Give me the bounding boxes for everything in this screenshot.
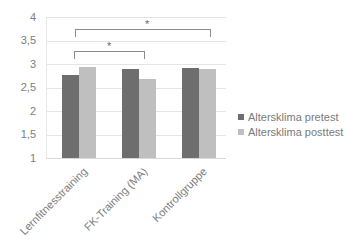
x-label-fk-training: FK-Training (MA) [82,165,150,233]
bar-kontrollgruppe-pretest [182,68,199,158]
y-tick-1-5: 1,5 [21,129,36,140]
y-tick-4: 4 [30,12,36,23]
legend-item-pretest: Altersklima pretest [238,109,343,124]
y-tick-2: 2 [30,106,36,117]
significance-star: * [107,40,111,52]
bar-fk-training-pretest [122,69,139,158]
significance-star: * [145,18,149,30]
x-axis-line [46,158,226,159]
y-tick-3: 3 [30,59,36,70]
gridline [46,41,226,42]
significance-bracket-lernfitness-fk-training [74,51,145,59]
legend-swatch-pretest [238,114,244,120]
bar-chart: 4 3,5 3 2,5 2 1,5 1 * * Lernfitnesstrain… [0,0,349,246]
legend: Altersklima pretest Altersklima posttest [238,109,343,139]
y-tick-2-5: 2,5 [21,82,36,93]
bar-lernfitness-posttest [79,67,96,158]
legend-label-posttest: Altersklima posttest [248,126,343,138]
bar-fk-training-posttest [139,79,156,158]
legend-swatch-posttest [238,129,244,135]
x-label-kontrollgruppe: Kontrollgruppe [150,165,209,224]
y-axis-line [46,17,47,159]
legend-label-pretest: Altersklima pretest [248,111,338,123]
legend-item-posttest: Altersklima posttest [238,124,343,139]
y-tick-1: 1 [30,153,36,164]
bar-kontrollgruppe-posttest [199,69,216,158]
x-label-lernfitnesstraining: Lernfitnesstraining [17,165,89,237]
significance-bracket-lernfitness-kontrollgruppe [75,29,211,37]
y-tick-3-5: 3,5 [21,35,36,46]
gridline [46,64,226,65]
bar-lernfitness-pretest [62,75,79,158]
gridline [46,17,226,18]
